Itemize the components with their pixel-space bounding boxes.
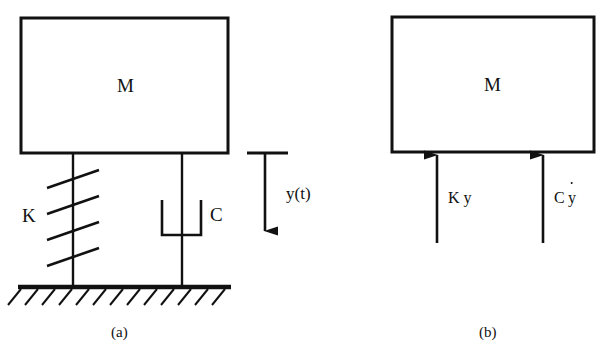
ground-hatching — [8, 289, 225, 305]
ground-support — [8, 287, 231, 305]
damper-label: C — [210, 205, 223, 224]
mass-spring-damper-diagram — [0, 0, 607, 353]
panel-a-group — [8, 18, 288, 305]
spring-label: K — [22, 206, 36, 225]
caption-a: (a) — [111, 325, 128, 340]
mass-label-a: M — [117, 76, 134, 95]
caption-b: (b) — [479, 325, 497, 340]
figure-container: M K C y(t) (a) M K y C y (b) — [0, 0, 607, 353]
spring-force-label: K y — [448, 190, 472, 206]
displacement-indicator — [247, 153, 288, 231]
damper-force-label: C y — [554, 190, 576, 206]
mass-label-b: M — [484, 75, 501, 94]
damper-element — [162, 153, 201, 287]
overdot-accent — [571, 182, 574, 185]
damper-force-variable: y — [568, 190, 576, 206]
displacement-label: y(t) — [286, 185, 311, 202]
spring-element — [47, 153, 99, 287]
damper-force-coefficient: C — [554, 189, 568, 206]
panel-b-group — [392, 17, 594, 243]
